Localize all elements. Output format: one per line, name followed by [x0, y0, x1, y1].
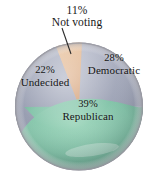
undecided-name: Undecided	[2, 76, 88, 88]
not-voting-name: Not voting	[0, 16, 154, 28]
not-voting-percent: 11%	[0, 4, 154, 16]
pie-chart: 11% Not voting 28% Democratic 22% Undeci…	[0, 0, 154, 185]
undecided-percent: 22%	[2, 64, 88, 76]
democratic-percent: 28%	[76, 52, 152, 64]
pie-label-not-voting: 11% Not voting	[0, 4, 154, 29]
pie-label-undecided: 22% Undecided	[2, 64, 88, 88]
republican-name: Republican	[42, 110, 134, 122]
pie-label-republican: 39% Republican	[42, 98, 134, 122]
republican-percent: 39%	[42, 98, 134, 110]
